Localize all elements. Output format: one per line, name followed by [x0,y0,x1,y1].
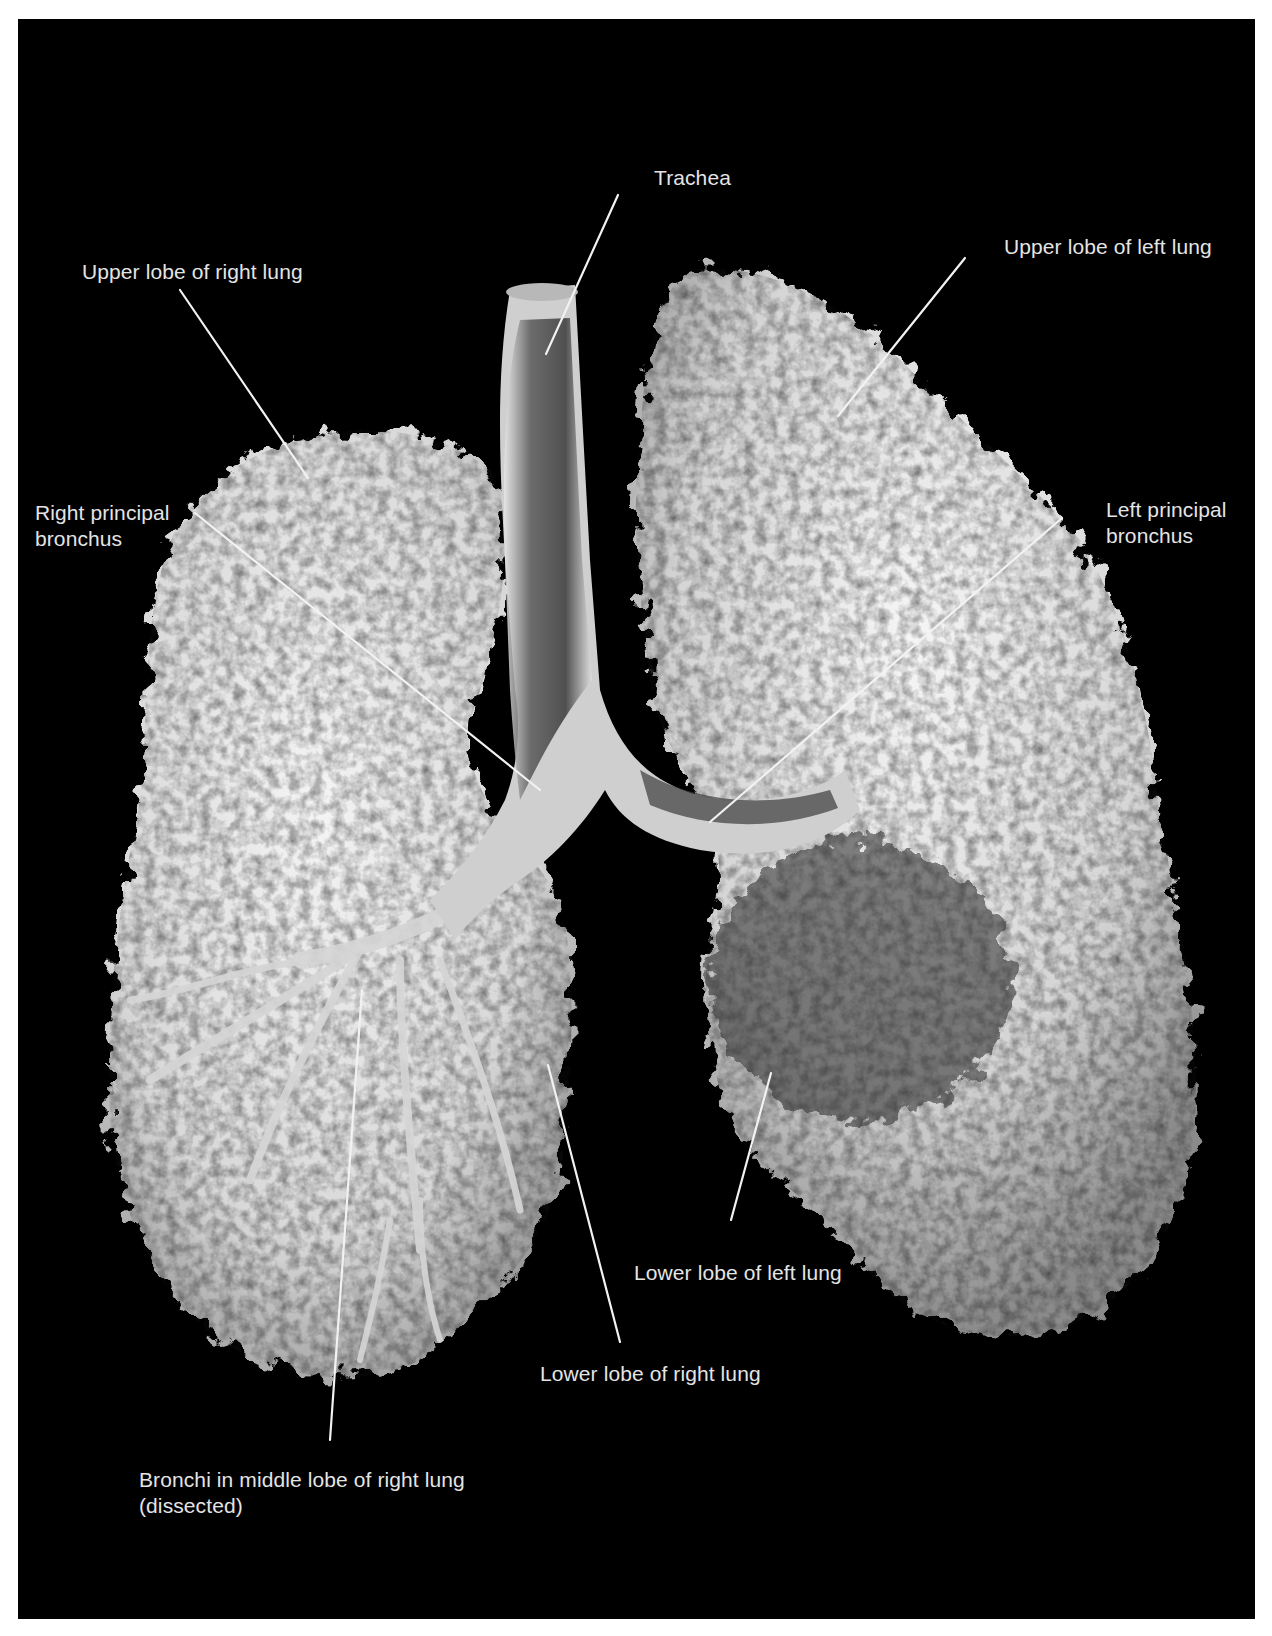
leader-upper-lobe-right [180,290,308,478]
leader-lower-lobe-right [548,1065,620,1342]
label-upper-lobe-left-lung: Upper lobe of left lung [1004,234,1212,260]
label-right-principal-bronchus: Right principal bronchus [35,500,170,552]
figure-panel: Trachea Upper lobe of right lung Upper l… [18,19,1255,1619]
label-lower-lobe-left-lung: Lower lobe of left lung [634,1260,842,1286]
leader-trachea [546,195,618,354]
label-trachea: Trachea [654,165,731,191]
label-lower-lobe-right-lung: Lower lobe of right lung [540,1361,761,1387]
label-middle-lobe-bronchi: Bronchi in middle lobe of right lung (di… [139,1467,465,1519]
label-left-principal-bronchus: Left principal bronchus [1106,497,1226,549]
label-upper-lobe-right-lung: Upper lobe of right lung [82,259,303,285]
